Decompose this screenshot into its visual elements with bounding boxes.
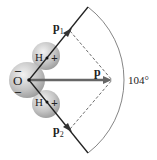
hydrogen-dot-top bbox=[46, 57, 49, 60]
hydrogen-bottom-label: H bbox=[35, 96, 43, 108]
dashed-line-top bbox=[70, 31, 112, 80]
angle-label: 104° bbox=[128, 74, 149, 86]
bond-line-bottom bbox=[29, 80, 88, 153]
plus-top-label: + bbox=[51, 51, 58, 65]
p1-label: p1 bbox=[53, 20, 64, 36]
minus-bottom-label: – bbox=[14, 84, 22, 98]
hydrogen-dot-bottom bbox=[46, 101, 49, 104]
water-dipole-diagram: O – – H + H + p1 p2 p 104° bbox=[0, 0, 157, 160]
oxygen-dot bbox=[27, 78, 31, 82]
bond-line-top bbox=[29, 7, 88, 80]
minus-top-label: – bbox=[14, 63, 22, 77]
arrow-head-p bbox=[103, 76, 112, 84]
p-label: p bbox=[94, 65, 101, 79]
plus-bottom-label: + bbox=[51, 96, 58, 110]
dashed-line-bottom bbox=[70, 80, 112, 129]
hydrogen-top-label: H bbox=[35, 51, 43, 63]
p2-label: p2 bbox=[53, 123, 64, 139]
